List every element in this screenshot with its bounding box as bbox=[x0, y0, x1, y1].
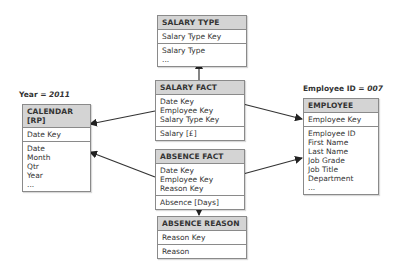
year-filter-text: Year = bbox=[19, 90, 49, 99]
attribute-field: First Name bbox=[308, 138, 374, 147]
key-field: Reason Key bbox=[162, 233, 242, 242]
key-field: Reason Key bbox=[160, 184, 240, 193]
employee-filter-value: 007 bbox=[367, 84, 383, 93]
attribute-section: Date Month Qtr Year ... bbox=[23, 142, 90, 191]
entity-absence-reason: ABSENCE REASON Reason Key Reason bbox=[157, 216, 247, 259]
key-field: Employee Key bbox=[160, 175, 240, 184]
absence-fact-to-calendar-arrow bbox=[90, 152, 155, 177]
entity-salary-fact: SALARY FACT Date Key Employee Key Salary… bbox=[155, 80, 245, 141]
employee-filter-text: Employee ID = bbox=[303, 84, 367, 93]
attribute-section: Employee ID First Name Last Name Job Gra… bbox=[304, 127, 378, 194]
absence-fact-to-employee-arrow bbox=[243, 158, 302, 174]
attribute-field: Month bbox=[27, 153, 86, 162]
entity-absence-fact: ABSENCE FACT Date Key Employee Key Reaso… bbox=[155, 149, 245, 210]
attribute-field: ... bbox=[27, 180, 86, 189]
key-field: Date Key bbox=[27, 130, 86, 139]
key-section: Date Key bbox=[23, 128, 90, 142]
key-section: Salary Type Key bbox=[158, 30, 246, 44]
key-section: Employee Key bbox=[304, 113, 378, 127]
attribute-field: Year bbox=[27, 171, 86, 180]
key-field: Salary Type Key bbox=[162, 32, 242, 41]
employee-filter-label: Employee ID = 007 bbox=[303, 84, 383, 93]
measure-section: Absence [Days] bbox=[156, 196, 244, 209]
entity-calendar: CALENDAR [RP] Date Key Date Month Qtr Ye… bbox=[22, 104, 91, 192]
measure-field: Salary [£] bbox=[160, 129, 240, 138]
key-section: Reason Key bbox=[158, 231, 246, 245]
entity-title: CALENDAR [RP] bbox=[23, 105, 90, 128]
year-filter-label: Year = 2011 bbox=[19, 90, 70, 99]
key-field: Employee Key bbox=[308, 115, 374, 124]
attribute-field: Reason bbox=[162, 247, 242, 256]
attribute-field: Job Title bbox=[308, 165, 374, 174]
salary-fact-to-employee-arrow bbox=[243, 104, 302, 119]
attribute-section: Reason bbox=[158, 245, 246, 258]
key-field: Salary Type Key bbox=[160, 115, 240, 124]
attribute-section: Salary Type ... bbox=[158, 44, 246, 66]
measure-section: Salary [£] bbox=[156, 127, 244, 140]
attribute-field: Date bbox=[27, 144, 86, 153]
attribute-field: ... bbox=[308, 183, 374, 192]
entity-salary-type: SALARY TYPE Salary Type Key Salary Type … bbox=[157, 15, 247, 67]
entity-title: ABSENCE FACT bbox=[156, 150, 244, 164]
salary-fact-to-calendar-arrow bbox=[90, 111, 155, 124]
key-field: Date Key bbox=[160, 166, 240, 175]
entity-title: ABSENCE REASON bbox=[158, 217, 246, 231]
entity-title: EMPLOYEE bbox=[304, 99, 378, 113]
year-filter-value: 2011 bbox=[49, 90, 70, 99]
attribute-field: Last Name bbox=[308, 147, 374, 156]
key-section: Date Key Employee Key Salary Type Key bbox=[156, 95, 244, 127]
attribute-field: ... bbox=[162, 55, 242, 64]
attribute-field: Job Grade bbox=[308, 156, 374, 165]
attribute-field: Qtr bbox=[27, 162, 86, 171]
entity-title: SALARY TYPE bbox=[158, 16, 246, 30]
key-field: Employee Key bbox=[160, 106, 240, 115]
entity-title: SALARY FACT bbox=[156, 81, 244, 95]
key-field: Date Key bbox=[160, 97, 240, 106]
attribute-field: Department bbox=[308, 174, 374, 183]
key-section: Date Key Employee Key Reason Key bbox=[156, 164, 244, 196]
entity-employee: EMPLOYEE Employee Key Employee ID First … bbox=[303, 98, 379, 195]
attribute-field: Salary Type bbox=[162, 46, 242, 55]
attribute-field: Employee ID bbox=[308, 129, 374, 138]
measure-field: Absence [Days] bbox=[160, 198, 240, 207]
